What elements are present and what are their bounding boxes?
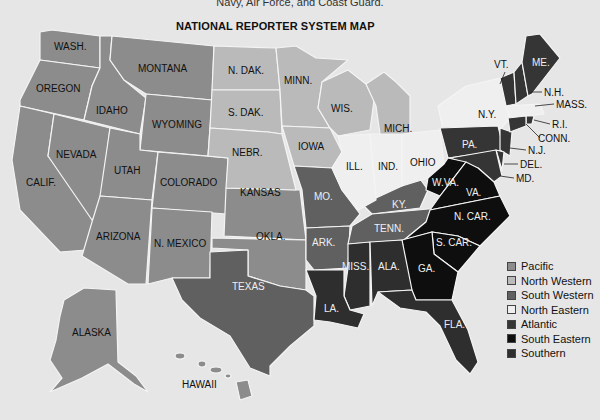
swatch-icon <box>507 305 516 314</box>
label-montana: MONTANA <box>138 63 188 74</box>
swatch-icon <box>507 349 516 358</box>
state-conn <box>508 116 526 132</box>
label-ndak: N. DAK. <box>228 65 264 76</box>
legend-item-pacific: Pacific <box>507 259 594 274</box>
label-ga: GA. <box>418 263 435 274</box>
label-wash: WASH. <box>54 41 86 52</box>
label-conn: CONN. <box>538 133 570 144</box>
label-arizona: ARIZONA <box>96 231 141 242</box>
legend-item-south-eastern: South Eastern <box>507 332 594 347</box>
label-alaska: ALASKA <box>72 327 111 338</box>
label-miss: MISS. <box>342 261 369 272</box>
swatch-icon <box>507 334 516 343</box>
label-ny: N.Y. <box>478 109 496 120</box>
label-minn: MINN. <box>284 75 312 86</box>
label-mass: MASS. <box>556 99 587 110</box>
label-okla: OKLA. <box>256 231 285 242</box>
state-miss <box>344 242 370 310</box>
label-colorado: COLORADO <box>160 177 217 188</box>
label-vt: VT. <box>494 59 508 70</box>
legend-item-atlantic: Atlantic <box>507 317 594 332</box>
legend-item-north-eastern: North Eastern <box>507 303 594 318</box>
label-ohio: OHIO <box>410 157 436 168</box>
label-wyoming: WYOMING <box>152 119 202 130</box>
label-tenn: TENN. <box>374 223 404 234</box>
state-alaska <box>50 288 148 392</box>
label-hawaii: HAWAII <box>182 379 217 390</box>
label-mo: MO. <box>314 191 333 202</box>
state-ri <box>526 116 534 124</box>
label-iowa: IOWA <box>298 141 325 152</box>
label-mich: MICH. <box>384 123 412 134</box>
label-calif: CALIF. <box>26 177 56 188</box>
label-nj: N.J. <box>528 145 546 156</box>
map-legend: Pacific North Western South Western Nort… <box>507 259 594 361</box>
label-ark: ARK. <box>312 237 335 248</box>
state-hawaii <box>175 353 252 400</box>
label-ncar: N. CAR. <box>454 211 491 222</box>
label-fla: FLA. <box>444 319 465 330</box>
label-me: ME. <box>532 57 550 68</box>
label-nmexico: N. MEXICO <box>154 238 206 249</box>
label-del: DEL. <box>520 159 542 170</box>
label-scar: S. CAR. <box>436 237 472 248</box>
label-va: VA. <box>466 187 481 198</box>
swatch-icon <box>507 320 516 329</box>
legend-item-north-western: North Western <box>507 274 594 289</box>
label-sdak: S. DAK. <box>228 107 264 118</box>
label-wis: WIS. <box>331 103 353 114</box>
label-pa: PA. <box>462 139 477 150</box>
label-oregon: OREGON <box>36 83 80 94</box>
label-idaho: IDAHO <box>96 105 128 116</box>
label-ind: IND. <box>378 161 398 172</box>
label-ky: KY. <box>392 199 407 210</box>
label-la: LA. <box>324 303 339 314</box>
label-md: MD. <box>516 173 534 184</box>
swatch-icon <box>507 262 516 271</box>
label-ala: ALA. <box>378 261 400 272</box>
label-nh: N.H. <box>544 87 564 98</box>
swatch-icon <box>507 291 516 300</box>
label-texas: TEXAS <box>232 281 265 292</box>
swatch-icon <box>507 276 516 285</box>
label-utah: UTAH <box>114 165 140 176</box>
state-fla <box>378 290 478 374</box>
label-ri: R.I. <box>552 119 568 130</box>
state-ny <box>438 78 510 134</box>
label-kansas: KANSAS <box>240 187 281 198</box>
label-ill: ILL. <box>346 161 363 172</box>
label-wva: W.VA. <box>432 177 459 188</box>
legend-item-southern: Southern <box>507 346 594 361</box>
label-nevada: NEVADA <box>56 149 97 160</box>
label-nebr: NEBR. <box>232 147 263 158</box>
legend-item-south-western: South Western <box>507 288 594 303</box>
